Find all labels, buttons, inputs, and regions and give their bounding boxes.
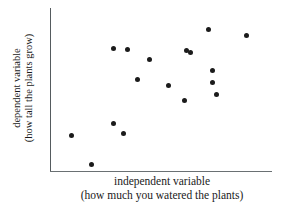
- data-point: [206, 27, 211, 32]
- data-point-layer: [50, 8, 272, 172]
- y-axis-label: dependent variable (how tall the plants …: [0, 0, 46, 176]
- data-point: [210, 68, 215, 73]
- data-point: [214, 92, 219, 97]
- x-axis-label-line2: (how much you watered the plants): [40, 189, 284, 203]
- data-point: [135, 77, 140, 82]
- data-point: [89, 162, 94, 167]
- data-point: [111, 121, 116, 126]
- data-point: [182, 98, 187, 103]
- x-axis-label-line1: independent variable: [40, 175, 284, 189]
- data-point: [188, 50, 193, 55]
- plot-area: [50, 8, 272, 172]
- data-point: [166, 83, 171, 88]
- data-point: [125, 47, 130, 52]
- data-point: [121, 131, 126, 136]
- data-point: [69, 133, 74, 138]
- data-point: [210, 80, 215, 85]
- y-axis-label-line1: dependent variable: [11, 34, 23, 142]
- y-axis-label-text: dependent variable (how tall the plants …: [11, 34, 36, 142]
- scatter-plot-figure: dependent variable (how tall the plants …: [0, 0, 284, 216]
- y-axis-label-line2: (how tall the plants grow): [23, 34, 35, 142]
- x-axis-label: independent variable (how much you water…: [40, 175, 284, 203]
- data-point: [147, 57, 152, 62]
- data-point: [244, 33, 249, 38]
- data-point: [111, 46, 116, 51]
